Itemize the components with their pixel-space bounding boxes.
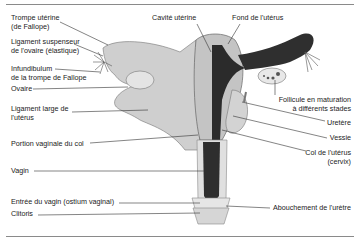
- left-ovary: [126, 71, 154, 89]
- right-ovary: [258, 68, 286, 84]
- vulva-base: [193, 208, 229, 224]
- label-clitoris: Clitoris: [11, 210, 33, 219]
- label-abouchement: Abouchement de l'urètre: [273, 204, 351, 213]
- label-follicule: Follicule en maturation à différents sta…: [279, 96, 351, 113]
- label-infundibulum: Infundibulum de la trompe de Fallope: [11, 65, 87, 82]
- right-fallopian-tube: [238, 33, 314, 70]
- label-ligament-suspenseur: Ligament suspenseur de l'ovaire (élastiq…: [11, 38, 80, 55]
- label-vagin: Vagin: [11, 167, 29, 176]
- label-fond: Fond de l'utérus: [232, 14, 283, 23]
- broad-ligament-shape: [103, 40, 200, 150]
- label-ovaire: Ovaire: [11, 85, 32, 94]
- label-uretere: Uretère: [327, 119, 351, 128]
- label-portion-vaginale: Portion vaginale du col: [11, 140, 84, 149]
- label-trompe: Trompe utérine (de Fallope): [11, 14, 59, 31]
- label-ligament-large: Ligament large de l'utérus: [11, 105, 69, 122]
- label-entree-vagin: Entrée du vagin (ostium vaginal): [11, 198, 114, 207]
- label-col: Col de l'utérus (cervix): [305, 149, 351, 166]
- label-vessie: Vessie: [330, 134, 351, 143]
- label-cavite: Cavité utérine: [152, 14, 196, 23]
- right-fimbriae-icon: [305, 52, 320, 72]
